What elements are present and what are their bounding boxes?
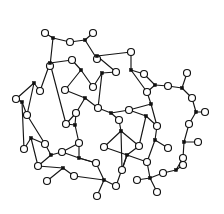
- oxygen-atom: [186, 121, 193, 128]
- oxygen-atom: [69, 57, 76, 64]
- silicon-atom: [29, 136, 32, 139]
- oxygen-atom: [144, 89, 151, 96]
- silicon-atom: [174, 168, 177, 171]
- oxygen-atom: [144, 159, 151, 166]
- oxygen-atom: [59, 149, 66, 156]
- silicon-atom: [83, 38, 86, 41]
- silicon-atom: [61, 166, 64, 169]
- oxygen-atom: [93, 160, 100, 167]
- oxygen-atom: [116, 117, 123, 124]
- silicon-atom: [129, 68, 132, 71]
- oxygen-atom: [95, 105, 102, 112]
- oxygen-atom: [113, 69, 120, 76]
- silicon-atom: [125, 153, 128, 156]
- oxygen-atom: [35, 163, 42, 170]
- bond-line: [22, 102, 24, 149]
- oxygen-atom: [136, 143, 143, 150]
- oxygen-atom: [21, 146, 28, 153]
- silicon-atom: [83, 96, 86, 99]
- oxygen-atom: [189, 95, 196, 102]
- silicon-atom: [180, 86, 183, 89]
- oxygen-atom: [195, 139, 202, 146]
- silicon-atom: [48, 61, 51, 64]
- silicon-atom: [109, 111, 112, 114]
- bond-line: [31, 138, 38, 166]
- bond-line: [97, 52, 131, 56]
- bond-line: [74, 176, 104, 180]
- oxygen-atom: [141, 71, 148, 78]
- oxygen-atom: [44, 178, 51, 185]
- oxygen-atom: [71, 173, 78, 180]
- oxygen-atom: [73, 110, 80, 117]
- silicon-atom: [51, 36, 54, 39]
- oxygen-atom: [101, 144, 108, 151]
- silicon-atom: [153, 138, 156, 141]
- oxygen-atom: [160, 170, 167, 177]
- oxygen-atom: [113, 183, 120, 190]
- oxygen-atom: [184, 70, 191, 77]
- oxygen-atom: [94, 193, 101, 200]
- silicon-atom: [100, 71, 103, 74]
- oxygen-atom: [119, 167, 126, 174]
- oxygen-atom: [62, 87, 69, 94]
- silicon-atom: [73, 123, 76, 126]
- oxygen-atom: [202, 109, 209, 116]
- oxygen-atom: [134, 177, 141, 184]
- oxygen-atom: [24, 112, 31, 119]
- oxygen-atom: [90, 30, 97, 37]
- bond-line: [121, 131, 122, 170]
- bond-line: [139, 116, 146, 146]
- silicon-atom-layer: [20, 36, 197, 181]
- silicon-atom: [77, 156, 80, 159]
- silicon-atom: [144, 114, 147, 117]
- oxygen-atom: [126, 107, 133, 114]
- molecular-structure-figure: [0, 0, 224, 214]
- oxygen-atom: [76, 140, 83, 147]
- silicon-atom: [119, 129, 122, 132]
- oxygen-atom: [42, 30, 49, 37]
- oxygen-atom: [154, 189, 161, 196]
- silicon-atom: [194, 110, 197, 113]
- silicon-atom: [182, 140, 185, 143]
- silicon-atom: [49, 153, 52, 156]
- silicon-atom: [95, 54, 98, 57]
- silica-network-diagram: [0, 0, 224, 214]
- silicon-atom: [102, 178, 105, 181]
- oxygen-atom: [63, 121, 70, 128]
- oxygen-atom: [154, 123, 161, 130]
- oxygen-atom: [13, 96, 20, 103]
- oxygen-atom: [180, 155, 187, 162]
- oxygen-atom: [165, 145, 172, 152]
- silicon-atom: [153, 83, 156, 86]
- silicon-atom: [20, 100, 23, 103]
- oxygen-atom: [180, 162, 187, 169]
- oxygen-atom: [67, 39, 74, 46]
- oxygen-atom: [128, 49, 135, 56]
- silicon-atom: [148, 176, 151, 179]
- oxygen-atom: [42, 141, 49, 148]
- silicon-atom: [79, 68, 82, 71]
- oxygen-atom: [165, 83, 172, 90]
- silicon-atom: [32, 81, 35, 84]
- oxygen-atom: [90, 84, 97, 91]
- oxygen-atom: [37, 88, 44, 95]
- silicon-atom: [149, 102, 152, 105]
